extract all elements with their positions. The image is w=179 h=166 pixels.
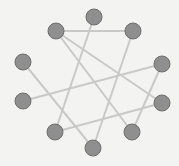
node-bottom-left — [47, 124, 63, 140]
edge-layer — [23, 17, 162, 148]
node-bottom — [85, 140, 101, 156]
node-upper-left — [48, 23, 64, 39]
node-left-upper — [15, 54, 31, 70]
node-right-lower — [154, 95, 170, 111]
edge-right-lower-to-bottom-left — [55, 103, 162, 132]
graph-diagram — [0, 0, 179, 166]
node-upper-right — [125, 23, 141, 39]
edge-left-lower-to-right-upper — [23, 64, 162, 101]
edge-upper-left-to-right-lower — [56, 31, 162, 103]
node-right-upper — [154, 56, 170, 72]
node-top — [86, 9, 102, 25]
node-bottom-right — [124, 124, 140, 140]
node-left-lower — [15, 93, 31, 109]
